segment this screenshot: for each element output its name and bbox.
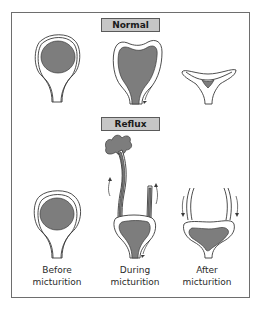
reflux-after-bladder (181, 188, 239, 258)
reflux-during-bladder (105, 135, 158, 258)
caption-line2: micturition (100, 276, 170, 288)
caption-line1: After (172, 264, 242, 276)
caption-line1: During (100, 264, 170, 276)
caption-line2: micturition (172, 276, 242, 288)
caption-before-micturition: Before micturition (22, 264, 92, 288)
normal-empty-bladder (182, 70, 236, 104)
caption-line2: micturition (22, 276, 92, 288)
normal-emptying-bladder (113, 40, 162, 104)
caption-during-micturition: During micturition (100, 264, 170, 288)
caption-line1: Before (22, 264, 92, 276)
normal-full-bladder (35, 35, 80, 102)
reflux-before-bladder (34, 191, 80, 258)
caption-after-micturition: After micturition (172, 264, 242, 288)
